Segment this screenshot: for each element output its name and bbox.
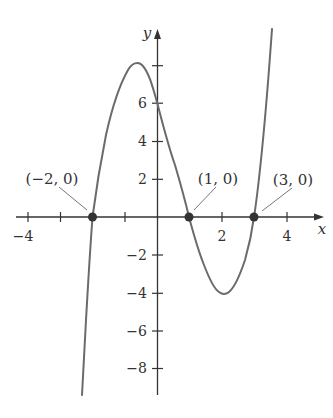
point-neg2-0 xyxy=(88,213,97,222)
y-tick-label-2: 2 xyxy=(138,171,147,187)
x-tick-label-neg4: −4 xyxy=(13,228,34,244)
x-tick-label-2: 2 xyxy=(218,228,227,244)
leader-line-3 xyxy=(262,188,292,211)
point-label-3-0: (3, 0) xyxy=(273,171,313,189)
leader-line-1 xyxy=(194,187,216,210)
y-axis-arrow-icon xyxy=(154,29,161,39)
y-tick-label-neg8: −8 xyxy=(126,360,147,376)
point-label-neg2-0: (−2, 0) xyxy=(26,170,79,188)
y-tick-label-neg6: −6 xyxy=(126,323,147,339)
cubic-curve xyxy=(82,29,272,395)
leader-line-neg2 xyxy=(59,187,87,210)
x-tick-label-4: 4 xyxy=(283,228,292,244)
point-3-0 xyxy=(250,213,259,222)
y-tick-label-neg2: −2 xyxy=(126,247,147,263)
x-axis: −4 2 4 x xyxy=(13,212,327,244)
point-1-0 xyxy=(185,213,194,222)
y-tick-label-6: 6 xyxy=(138,95,147,111)
x-axis-label: x xyxy=(318,220,327,238)
cubic-function-graph: −4 2 4 x 6 4 2 −2 −4 −6 xyxy=(0,0,333,418)
y-axis-label: y xyxy=(142,24,152,42)
y-tick-label-4: 4 xyxy=(138,133,147,149)
y-axis: 6 4 2 −2 −4 −6 −8 y xyxy=(126,24,163,395)
y-tick-label-neg4: −4 xyxy=(126,285,147,301)
point-label-1-0: (1, 0) xyxy=(198,170,238,188)
